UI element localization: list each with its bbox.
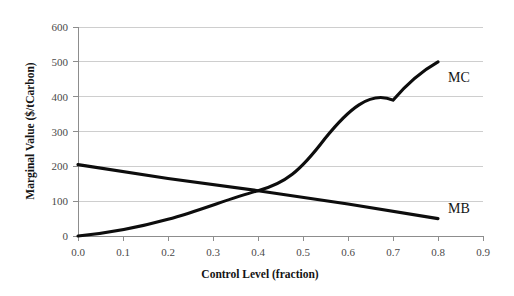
y-tick-marks [73,27,78,236]
chart-figure: 600 500 400 300 200 100 0 0.0 0.1 0.2 0.… [0,0,514,296]
x-tick-label: 0.1 [116,246,130,258]
y-axis-title: Marginal Value ($/tCarbon) [24,62,37,200]
x-tick-label: 0.9 [476,246,490,258]
series-label-mc: MC [448,70,470,85]
x-tick-label: 0.3 [206,246,220,258]
x-axis-title: Control Level (fraction) [201,268,318,281]
x-tick-label: 0.4 [251,246,265,258]
y-tick-label: 600 [52,21,69,33]
y-tick-label: 500 [52,56,69,68]
y-tick-label: 400 [52,91,69,103]
series-line-mb [78,165,438,219]
y-tick-label: 100 [52,195,69,207]
x-tick-marks [78,236,483,241]
x-tick-label: 0.6 [341,246,355,258]
y-tick-labels: 600 500 400 300 200 100 0 [52,21,69,242]
y-tick-label: 300 [52,126,69,138]
y-tick-label: 200 [52,160,69,172]
x-tick-label: 0.0 [71,246,85,258]
y-tick-label: 0 [63,230,69,242]
x-tick-label: 0.8 [431,246,445,258]
x-tick-labels: 0.0 0.1 0.2 0.3 0.4 0.5 0.6 0.7 0.8 0.9 [71,246,490,258]
series-label-mb: MB [448,201,470,216]
x-tick-label: 0.5 [296,246,310,258]
x-tick-label: 0.2 [161,246,175,258]
marginal-value-line-chart: 600 500 400 300 200 100 0 0.0 0.1 0.2 0.… [0,0,514,296]
x-tick-label: 0.7 [386,246,400,258]
